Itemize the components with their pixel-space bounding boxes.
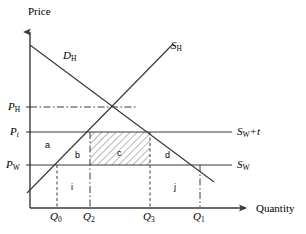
- quantity-label-q2: Q2: [83, 211, 95, 222]
- region-label-j: j: [174, 183, 176, 192]
- region-label-b: b: [75, 151, 80, 160]
- x-axis-title: Quantity: [256, 203, 295, 214]
- curve-label-demand-home: DH: [63, 50, 76, 61]
- region-label-i: i: [71, 183, 73, 192]
- y-axis-title: Price: [28, 6, 51, 17]
- region-label-a: a: [45, 141, 50, 150]
- curve-label-supply-home: SH: [171, 40, 182, 51]
- region-label-c: c: [117, 149, 122, 158]
- quantity-label-q3: Q3: [143, 211, 155, 222]
- quantity-label-q0: Q0: [50, 211, 62, 222]
- curve-label-world-supply-plus-tariff: SW+t: [237, 126, 260, 137]
- curve-label-world-supply: SW: [237, 159, 250, 170]
- quantity-label-q1: Q1: [193, 211, 205, 222]
- price-label-pt: Pt: [10, 126, 19, 137]
- supply-curve-home: [27, 44, 173, 193]
- price-label-ph: PH: [8, 101, 20, 112]
- supply-demand-chart: [0, 0, 306, 234]
- price-label-pw: PW: [6, 159, 20, 170]
- region-label-d: d: [165, 151, 170, 160]
